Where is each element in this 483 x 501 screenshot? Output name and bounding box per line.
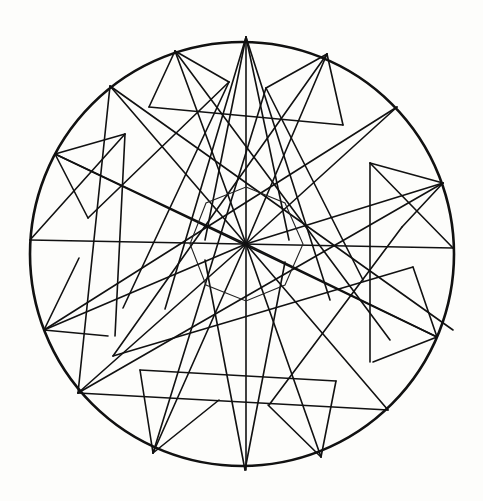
line-segment	[246, 183, 443, 244]
line-segment	[246, 107, 397, 244]
line-segment	[165, 37, 246, 309]
line-segment	[110, 86, 453, 330]
line-segment	[44, 330, 108, 336]
line-segment	[153, 244, 246, 453]
line-segment	[175, 51, 229, 82]
line-segment	[55, 154, 88, 218]
line-segment	[88, 82, 229, 218]
line-segment	[269, 227, 402, 405]
line-segment	[175, 51, 390, 340]
line-segment	[370, 163, 453, 248]
line-segment	[78, 86, 110, 393]
line-segment	[268, 405, 321, 457]
line-segment	[30, 134, 125, 240]
line-segment	[370, 163, 443, 183]
line-segment	[149, 51, 175, 107]
line-segment	[140, 370, 336, 381]
line-segment	[153, 400, 219, 453]
mandala-figure	[0, 0, 483, 501]
line-segment	[266, 54, 327, 88]
line-segment	[246, 54, 327, 244]
